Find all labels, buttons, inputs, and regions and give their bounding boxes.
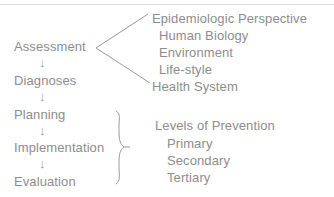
- process-step-assessment: Assessment: [14, 40, 86, 54]
- down-arrow-icon: ↓: [39, 90, 50, 107]
- prevention-level-tertiary: Tertiary: [167, 171, 210, 185]
- fork-branch-lower: [96, 48, 150, 83]
- determinant-human-biology: Human Biology: [159, 29, 248, 43]
- grouping-brace: [116, 111, 124, 184]
- top-divider-rule: [0, 4, 334, 5]
- process-step-diagnoses: Diagnoses: [14, 74, 76, 88]
- prevention-level-secondary: Secondary: [167, 154, 230, 168]
- determinant-life-style: Life-style: [159, 63, 212, 77]
- down-arrow-icon: ↓: [39, 157, 50, 174]
- process-step-planning: Planning: [14, 108, 65, 122]
- process-step-evaluation: Evaluation: [14, 175, 76, 189]
- determinant-health-system: Health System: [152, 80, 238, 94]
- determinant-environment: Environment: [159, 46, 233, 60]
- down-arrow-icon: ↓: [39, 124, 50, 141]
- diagram-canvas: Assessment ↓ Diagnoses ↓ Planning ↓ Impl…: [0, 0, 334, 197]
- down-arrow-icon: ↓: [39, 56, 50, 73]
- prevention-level-primary: Primary: [167, 137, 212, 151]
- fork-branch-upper: [96, 14, 148, 48]
- process-step-implementation: Implementation: [14, 141, 104, 155]
- determinant-epidemiologic-perspective: Epidemiologic Perspective: [152, 12, 307, 26]
- levels-of-prevention-heading: Levels of Prevention: [155, 119, 275, 133]
